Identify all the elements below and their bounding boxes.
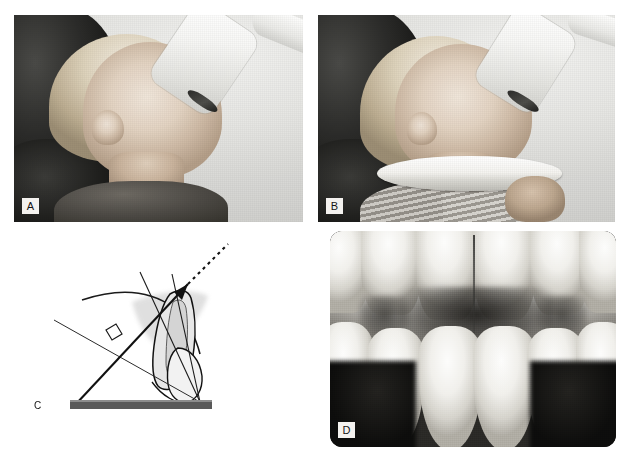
photo-grain [318,15,615,222]
panel-b-photograph: B [318,15,615,222]
panel-a-scene [14,15,303,222]
beam-dashed-extension [188,244,228,284]
figure-plate: A B [0,0,622,451]
panel-label-d: D [338,422,355,438]
panel-d-radiograph: D [330,231,616,447]
panel-a-photograph: A [14,15,303,222]
film-bar [70,402,212,409]
film-bar-highlight [70,400,212,402]
right-angle-marker [106,324,122,340]
bisecting-angle-schematic [12,232,312,444]
panel-b-scene [318,15,615,222]
radiograph-grain [330,231,616,447]
panel-label-a: A [22,198,39,214]
panel-c-diagram: C [12,232,312,444]
panel-label-c: C [34,400,41,411]
panel-label-b: B [326,198,343,214]
radiograph-image [330,231,616,447]
photo-grain [14,15,303,222]
